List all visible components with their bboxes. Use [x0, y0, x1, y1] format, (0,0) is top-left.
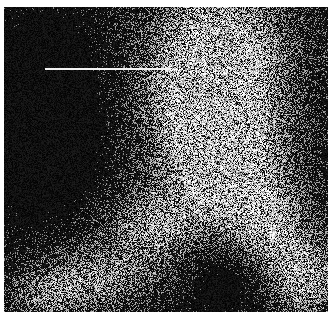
micrograph-frame — [4, 7, 328, 312]
micrograph-image — [4, 7, 328, 312]
